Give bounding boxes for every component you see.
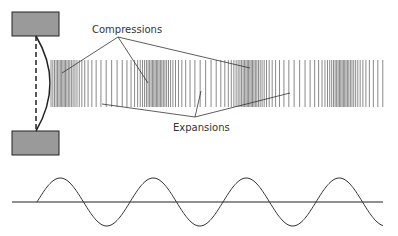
top-block [12, 12, 59, 36]
bottom-block [12, 131, 59, 155]
displaced-membrane-curve [36, 36, 50, 131]
vibrating-source [12, 12, 59, 155]
compressions-label: Compressions [92, 24, 162, 35]
pressure-band [51, 60, 383, 107]
sound-wave-diagram: Compressions Expansions [0, 0, 398, 236]
expansions-label: Expansions [173, 122, 230, 133]
